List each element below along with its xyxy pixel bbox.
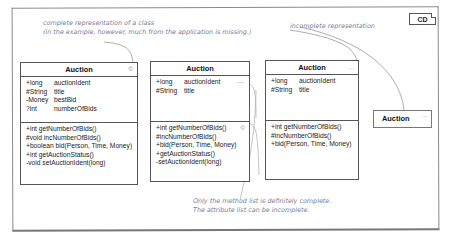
note-method-list: Only the method list is definitely compl… (193, 197, 331, 214)
ellipsis-icon: ... (237, 77, 244, 86)
method-row: +bid(Person, Time, Money) (271, 140, 353, 149)
method-list: +int getNumberOfBids() #incNumberOfBids(… (266, 121, 358, 151)
complete-marker-icon: © (129, 63, 133, 76)
attribute-name: title (299, 86, 309, 93)
note-line: complete representation of a class (43, 19, 251, 28)
attribute-row: +longauctionIdent (271, 77, 353, 86)
attribute-row: #Stringtitle (26, 88, 132, 97)
attribute-row: #Stringtitle (156, 87, 244, 96)
method-row: #void incNumberOfBids() (26, 134, 132, 143)
method-row: +int getNumberOfBids() (271, 123, 353, 132)
attribute-name: title (184, 87, 194, 94)
ellipsis-icon: ... (422, 107, 427, 123)
method-row: +boolean bid(Person, Time, Money) (26, 142, 132, 151)
attribute-type: -Money (26, 96, 54, 105)
note-incomplete-representation: incomplete representation (290, 22, 375, 31)
class-header: Auction © (21, 63, 137, 77)
class-name: Auction (65, 65, 93, 74)
attribute-row: +longauctionIdent (26, 79, 132, 88)
method-row: +bid(Person, Time, Money) (156, 141, 244, 150)
method-list: +int getNumberOfBids() #void incNumberOf… (21, 123, 137, 170)
method-row: -void setAuctionIdent(long) (26, 159, 132, 168)
attribute-name: numberOfBids (54, 105, 97, 112)
attribute-name: auctionIdent (54, 79, 90, 86)
class-name: Auction (382, 114, 410, 123)
class-box-complete[interactable]: Auction © +longauctionIdent #Stringtitle… (20, 62, 138, 185)
note-line: The attribute list can be incomplete. (193, 206, 331, 215)
complete-marker-icon: © (241, 124, 245, 133)
method-row: #incNumberOfBids() (156, 133, 244, 142)
attribute-name: auctionIdent (184, 78, 220, 85)
attribute-row: -MoneybestBid (26, 96, 132, 105)
attribute-row: +longauctionIdent (156, 78, 244, 87)
method-row: #incNumberOfBids() (271, 132, 353, 141)
attribute-type: #String (271, 86, 299, 95)
method-row: +getAuctionStatus() (156, 150, 244, 159)
attribute-list: +longauctionIdent #Stringtitle -Moneybes… (21, 77, 137, 123)
attribute-type: #String (26, 88, 54, 97)
method-row: -setAuctionIdent(long) (156, 158, 244, 167)
attribute-list: +longauctionIdent #Stringtitle (266, 75, 358, 121)
attribute-name: title (54, 88, 64, 95)
attribute-name: auctionIdent (299, 77, 335, 84)
class-box-incomplete[interactable]: Auction ... +longauctionIdent #Stringtit… (265, 60, 359, 180)
attribute-row: ?intnumberOfBids (26, 105, 132, 114)
method-row: +int getAuctionStatus() (26, 151, 132, 160)
class-name: Auction (298, 63, 326, 72)
method-row: +int getNumberOfBids() (26, 125, 132, 134)
class-header: Auction ... (374, 111, 431, 127)
note-complete-representation: complete representation of a class (in t… (43, 19, 251, 36)
class-name: Auction (186, 64, 214, 73)
note-line: Only the method list is definitely compl… (193, 197, 331, 206)
attribute-list: ... +longauctionIdent #Stringtitle (151, 76, 249, 122)
class-box-methods-complete[interactable]: Auction ... +longauctionIdent #Stringtit… (150, 61, 250, 182)
ellipsis-icon: ... (349, 61, 354, 74)
attribute-type: +long (271, 77, 299, 86)
method-row: +int getNumberOfBids() (156, 124, 244, 133)
attribute-name: bestBid (54, 96, 76, 103)
class-box-collapsed[interactable]: Auction ... (373, 110, 432, 128)
class-header: Auction ... (266, 61, 358, 75)
attribute-type: +long (156, 78, 184, 87)
attribute-row: #Stringtitle (271, 86, 353, 95)
attribute-type: #String (156, 87, 184, 96)
note-line: (in the example, however, much from the … (43, 28, 251, 37)
method-list: © +int getNumberOfBids() #incNumberOfBid… (151, 122, 249, 169)
attribute-type: ?int (26, 105, 54, 114)
attribute-type: +long (26, 79, 54, 88)
class-header: Auction (151, 62, 249, 76)
